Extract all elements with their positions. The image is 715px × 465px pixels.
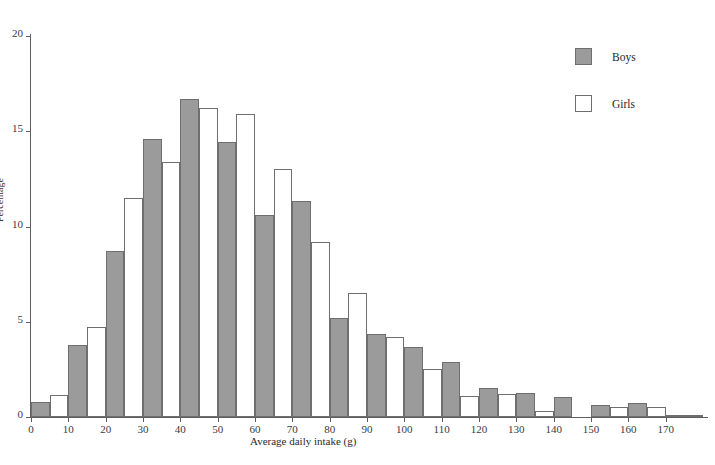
- legend-entry-boys: Boys: [575, 48, 636, 65]
- bar-boys-110-120: [442, 362, 461, 417]
- legend-swatch-girls-icon: [575, 95, 592, 112]
- y-tick-5: 5: [0, 322, 31, 323]
- y-tick-10: 10: [0, 227, 31, 228]
- bar-boys-160-170: [628, 403, 647, 417]
- bar-girls-0-10: [50, 395, 69, 417]
- x-tick-mark: [628, 417, 629, 422]
- y-axis-label: Percentage: [0, 178, 5, 222]
- x-tick-label: 160: [620, 424, 637, 435]
- x-tick-mark: [442, 417, 443, 422]
- x-tick-label: 140: [545, 424, 562, 435]
- y-tick-label: 5: [18, 314, 24, 325]
- x-tick-label: 150: [583, 424, 600, 435]
- x-tick-mark: [143, 417, 144, 422]
- bar-boys-50-60: [218, 142, 237, 417]
- x-tick-mark: [218, 417, 219, 422]
- legend-label-boys: Boys: [612, 51, 636, 63]
- bar-boys-30-40: [143, 139, 162, 417]
- bar-girls-20-30: [124, 198, 143, 417]
- bar-girls-100-110: [423, 369, 442, 417]
- bar-boys-90-100: [367, 334, 386, 417]
- y-tick-label: 20: [12, 28, 23, 39]
- bar-boys-100-110: [404, 347, 423, 417]
- bar-boys-10-20: [68, 345, 87, 417]
- y-tick-0: 0: [0, 417, 31, 418]
- figure-caption-fragment: [8, 0, 528, 5]
- bar-boys-150-160: [591, 405, 610, 417]
- x-tick-label: 70: [287, 424, 298, 435]
- bar-boys-70-80: [292, 201, 311, 417]
- bar-girls-130-140: [535, 411, 554, 417]
- x-tick-label: 40: [175, 424, 186, 435]
- bar-boys-0-10: [31, 402, 50, 417]
- x-tick-mark: [180, 417, 181, 422]
- x-tick-mark: [367, 417, 368, 422]
- x-tick-mark: [479, 417, 480, 422]
- bar-girls-60-70: [274, 169, 293, 417]
- bar-girls-160-170: [647, 407, 666, 417]
- x-tick-label: 60: [249, 424, 260, 435]
- bar-girls-110-120: [460, 396, 479, 417]
- bar-girls-70-80: [311, 242, 330, 417]
- x-tick-mark: [516, 417, 517, 422]
- x-tick-mark: [404, 417, 405, 422]
- x-tick-label: 20: [100, 424, 111, 435]
- x-tick-mark: [591, 417, 592, 422]
- x-tick-label: 120: [471, 424, 488, 435]
- x-tick-label: 10: [63, 424, 74, 435]
- x-tick-label: 100: [396, 424, 413, 435]
- figure-histogram: 05101520 0102030405060708090100110120130…: [0, 0, 715, 465]
- x-axis-line: [30, 417, 708, 418]
- bar-girls-90-100: [386, 337, 405, 417]
- bar-girls-10-20: [87, 327, 106, 417]
- x-tick-mark: [106, 417, 107, 422]
- bar-girls-40-50: [199, 108, 218, 417]
- bars-layer: [31, 36, 711, 417]
- y-tick-15: 15: [0, 131, 31, 132]
- y-tick-20: 20: [0, 36, 31, 37]
- bar-girls-120-130: [498, 394, 517, 417]
- x-tick-label: 130: [508, 424, 525, 435]
- x-tick-label: 110: [434, 424, 450, 435]
- bar-boys-80-90: [330, 318, 349, 417]
- bar-boys-40-50: [180, 99, 199, 417]
- bar-girls-80-90: [348, 293, 367, 417]
- x-tick-mark: [330, 417, 331, 422]
- x-tick-label: 50: [212, 424, 223, 435]
- bar-girls-170-180: [684, 415, 703, 417]
- bar-girls-50-60: [236, 114, 255, 417]
- bar-boys-140-150: [554, 397, 573, 417]
- x-tick-mark: [68, 417, 69, 422]
- x-tick-mark: [554, 417, 555, 422]
- x-tick-label: 90: [361, 424, 372, 435]
- y-tick-label: 0: [18, 409, 24, 420]
- x-tick-label: 80: [324, 424, 335, 435]
- x-tick-label: 170: [657, 424, 674, 435]
- x-axis-label: Average daily intake (g): [250, 435, 356, 447]
- bar-boys-170-180: [666, 415, 685, 417]
- bar-boys-60-70: [255, 215, 274, 417]
- x-tick-mark: [31, 417, 32, 422]
- x-tick-mark: [255, 417, 256, 422]
- legend-label-girls: Girls: [612, 98, 635, 110]
- x-tick-label: 30: [137, 424, 148, 435]
- y-tick-label: 15: [12, 123, 23, 134]
- bar-boys-130-140: [516, 393, 535, 417]
- bar-girls-30-40: [162, 162, 181, 417]
- bar-boys-120-130: [479, 388, 498, 417]
- y-tick-label: 10: [12, 219, 23, 230]
- x-tick-mark: [292, 417, 293, 422]
- x-tick-label: 0: [28, 424, 34, 435]
- legend-entry-girls: Girls: [575, 95, 635, 112]
- bar-girls-150-160: [610, 407, 629, 417]
- x-tick-mark: [666, 417, 667, 422]
- legend-swatch-boys-icon: [575, 48, 592, 65]
- bar-boys-20-30: [106, 251, 125, 417]
